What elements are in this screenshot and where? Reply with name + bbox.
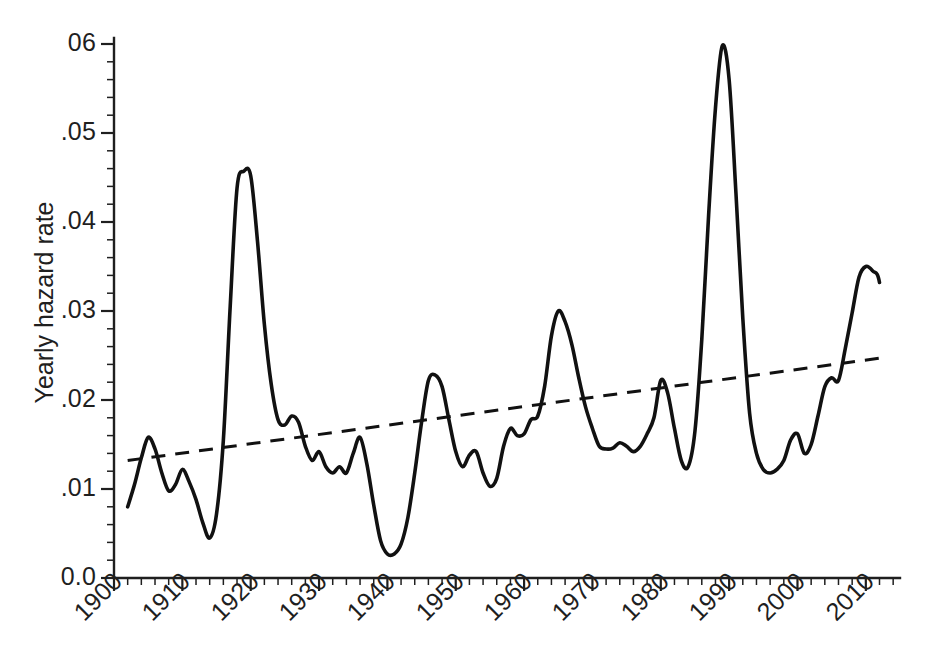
y-tick-label: .01 [8, 473, 96, 502]
y-tick-label: 06 [8, 28, 96, 57]
y-tick-label: .04 [8, 206, 96, 235]
chart-container: Yearly hazard rate 0.0.01.02.03.04.0506 … [0, 0, 932, 670]
y-tick-label: .05 [8, 117, 96, 146]
y-axis-ticks [101, 44, 114, 578]
y-tick-label: .03 [8, 295, 96, 324]
trend-line-series [128, 357, 887, 460]
y-tick-label: .02 [8, 384, 96, 413]
y-tick-label: 0.0 [8, 562, 96, 591]
hazard-rate-series [128, 45, 880, 556]
